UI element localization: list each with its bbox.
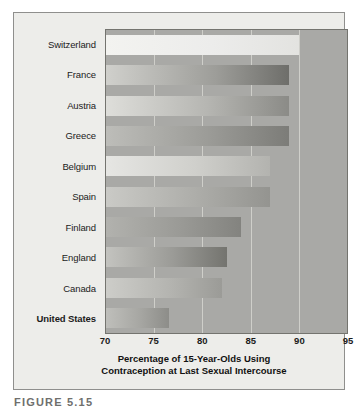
y-axis-label: United States bbox=[14, 304, 102, 335]
y-axis-label: Austria bbox=[14, 90, 102, 121]
y-axis-category-labels: SwitzerlandFranceAustriaGreeceBelgiumSpa… bbox=[14, 29, 102, 334]
gridline bbox=[347, 30, 348, 333]
bar bbox=[106, 187, 270, 207]
bar-row bbox=[106, 212, 347, 242]
bar bbox=[106, 217, 241, 237]
bar bbox=[106, 65, 289, 85]
plot-area bbox=[105, 29, 348, 334]
x-axis-tick: 85 bbox=[246, 335, 257, 346]
bar bbox=[106, 308, 169, 328]
bar bbox=[106, 278, 222, 298]
x-axis-title-line-2: Contraception at Last Sexual Intercourse bbox=[54, 365, 334, 377]
figure-root: SwitzerlandFranceAustriaGreeceBelgiumSpa… bbox=[0, 0, 357, 407]
bar bbox=[106, 156, 270, 176]
bar bbox=[106, 35, 299, 55]
y-axis-label: Switzerland bbox=[14, 29, 102, 60]
bar-row bbox=[106, 181, 347, 211]
bar-row bbox=[106, 60, 347, 90]
bar bbox=[106, 96, 289, 116]
x-axis-tick: 75 bbox=[148, 335, 159, 346]
x-axis-tick-labels: 707580859095 bbox=[105, 335, 348, 349]
y-axis-label: France bbox=[14, 60, 102, 91]
bar-series bbox=[106, 30, 347, 333]
bar-row bbox=[106, 91, 347, 121]
y-axis-label: Spain bbox=[14, 182, 102, 213]
x-axis-tick: 95 bbox=[343, 335, 354, 346]
bar-row bbox=[106, 303, 347, 333]
bar-row bbox=[106, 30, 347, 60]
figure-caption: FIGURE 5.15 bbox=[14, 396, 93, 407]
bar bbox=[106, 247, 227, 267]
bar-row bbox=[106, 272, 347, 302]
figure-panel: SwitzerlandFranceAustriaGreeceBelgiumSpa… bbox=[13, 12, 345, 390]
bar-row bbox=[106, 151, 347, 181]
bar bbox=[106, 126, 289, 146]
x-axis-tick: 70 bbox=[100, 335, 111, 346]
bar-chart: SwitzerlandFranceAustriaGreeceBelgiumSpa… bbox=[14, 13, 346, 391]
bar-row bbox=[106, 121, 347, 151]
bar-row bbox=[106, 242, 347, 272]
y-axis-label: Canada bbox=[14, 273, 102, 304]
x-axis-title-line-1: Percentage of 15-Year-Olds Using bbox=[54, 353, 334, 365]
x-axis-title: Percentage of 15-Year-Olds Using Contrac… bbox=[54, 353, 334, 377]
y-axis-label: Finland bbox=[14, 212, 102, 243]
y-axis-label: England bbox=[14, 243, 102, 274]
y-axis-label: Greece bbox=[14, 121, 102, 152]
y-axis-label: Belgium bbox=[14, 151, 102, 182]
x-axis-tick: 90 bbox=[294, 335, 305, 346]
x-axis-tick: 80 bbox=[197, 335, 208, 346]
